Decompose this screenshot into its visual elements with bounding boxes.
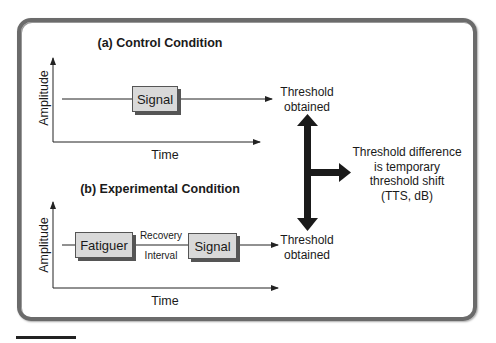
experimental-signal-box: Signal: [188, 233, 237, 259]
recovery-label: Recovery: [140, 230, 182, 241]
threshold-bottom-label: Threshold obtained: [280, 233, 333, 262]
control-signal-label: Signal: [137, 92, 173, 107]
decorative-bar: [16, 336, 76, 339]
control-y-label: Amplitude: [37, 70, 51, 126]
fatiguer-box: Fatiguer: [75, 232, 133, 258]
control-x-label: Time: [151, 148, 178, 162]
experimental-y-label: Amplitude: [37, 217, 51, 273]
control-title: (a) Control Condition: [98, 36, 223, 50]
control-signal-box: Signal: [132, 86, 178, 112]
experimental-title: (b) Experimental Condition: [80, 182, 240, 196]
threshold-top-label: Threshold obtained: [280, 85, 333, 114]
experimental-x-label: Time: [151, 294, 178, 308]
tts-explanation: Threshold difference is temporary thresh…: [352, 145, 461, 203]
fatiguer-label: Fatiguer: [80, 238, 128, 253]
threshold-difference-arrow: [297, 114, 351, 231]
experimental-signal-label: Signal: [194, 239, 230, 254]
interval-label: Interval: [145, 250, 178, 261]
